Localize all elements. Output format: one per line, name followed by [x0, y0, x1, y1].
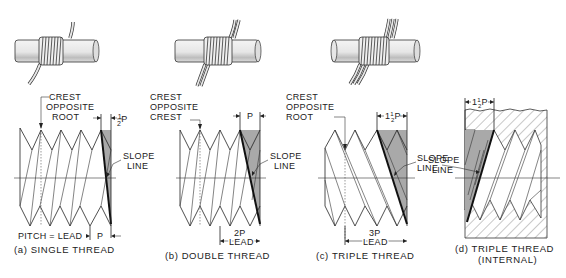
lead-label-c: LEAD [363, 237, 388, 247]
caption-d-line1: (d) TRIPLE THREAD [455, 243, 554, 254]
label-crest-b1: CREST [150, 92, 182, 102]
caption-b: (b) DOUBLE THREAD [165, 250, 270, 261]
dim-p-b: P [247, 111, 253, 121]
label-crest-a: CREST [49, 92, 81, 102]
slope-label-d-2: LINE [432, 165, 453, 175]
rod-single-wire-illustration [15, 22, 99, 84]
caption-c: (c) TRIPLE THREAD [316, 250, 415, 261]
caption-d-line2: (INTERNAL) [478, 254, 537, 265]
dim-1-half-p-d: 112P [472, 97, 488, 109]
panel-double-thread [176, 112, 268, 245]
slope-label-d-1: SLOPE [428, 155, 460, 165]
label-crest-b2: CREST [150, 112, 182, 122]
label-opposite-c: OPPOSITE [286, 102, 334, 112]
dim-1-half-p-c: 112P [385, 111, 401, 123]
label-opposite-b: OPPOSITE [150, 102, 198, 112]
lead-label-b: LEAD [229, 237, 254, 247]
slope-label-b-2: LINE [274, 161, 295, 171]
thread-diagram: CREST OPPOSITE ROOT 12P SLOPE LINE PITCH… [0, 0, 566, 278]
label-root-c: ROOT [286, 112, 313, 122]
slope-label-b-1: SLOPE [270, 151, 302, 161]
rod-double-wire-illustration [175, 20, 261, 86]
panel-triple-thread [318, 112, 416, 245]
panel-triple-thread-internal [442, 98, 560, 238]
slope-label-a-2: LINE [127, 161, 148, 171]
label-root-a: ROOT [52, 112, 79, 122]
slope-label-a-1: SLOPE [123, 151, 155, 161]
caption-a: (a) SINGLE THREAD [14, 244, 115, 255]
label-crest-c: CREST [286, 92, 318, 102]
pitch-equals-lead-label: PITCH = LEAD [18, 231, 83, 241]
pitch-p-label-a: P [97, 231, 103, 241]
rod-triple-wire-illustration [331, 19, 420, 84]
label-opposite-a: OPPOSITE [46, 102, 94, 112]
dim-half-p-a: 12P [117, 113, 128, 127]
